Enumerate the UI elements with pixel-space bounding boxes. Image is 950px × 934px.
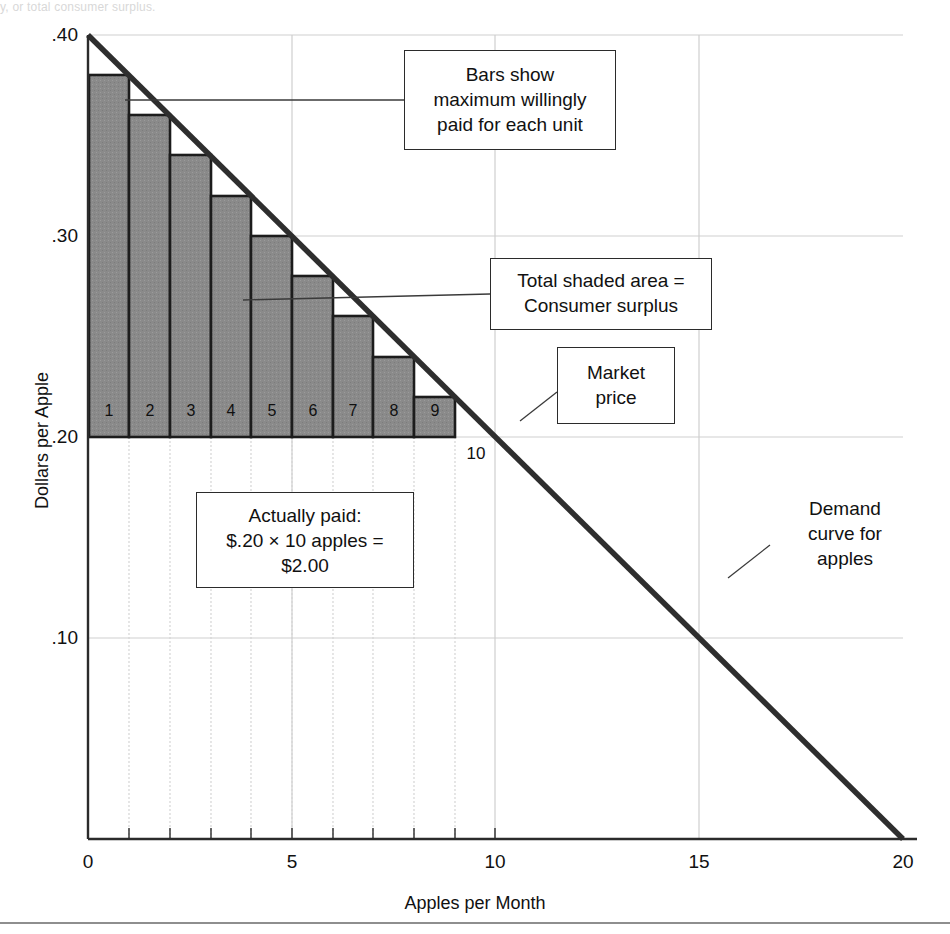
bar-unit-1 [89,75,129,437]
market-quantity-label: 10 [456,444,496,464]
consumer-surplus-figure: y, or total consumer surplus. [0,0,950,934]
bar-label-6: 6 [293,402,333,420]
y-tick-010: .10 [26,627,78,649]
x-tick-5: 5 [262,851,322,873]
x-axis-ticks [129,828,495,839]
callout-actually-paid: Actually paid: $.20 × 10 apples = $2.00 [196,492,414,588]
x-tick-10: 10 [465,851,525,873]
bar-unit-4 [211,196,251,437]
bar-label-9: 9 [415,402,455,420]
label-demand-curve: Demand curve for apples [770,496,920,571]
bar-unit-8 [373,357,414,437]
x-tick-20: 20 [873,851,933,873]
bar-label-4: 4 [211,402,251,420]
x-tick-0: 0 [58,851,118,873]
y-axis-title: Dollars per Apple [32,311,53,571]
callout-shaded-area: Total shaded area = Consumer surplus [490,258,712,330]
bar-unit-3 [170,155,211,437]
y-tick-030: .30 [26,225,78,247]
x-axis-title: Apples per Month [0,893,950,914]
bar-unit-2 [129,115,170,437]
bar-label-3: 3 [171,402,211,420]
y-tick-040: .40 [26,24,78,46]
x-tick-15: 15 [669,851,729,873]
surplus-bars [89,75,455,437]
bar-label-8: 8 [374,402,414,420]
bar-label-1: 1 [89,402,129,420]
callout-market-price: Market price [557,347,675,424]
leader-demand [728,545,770,578]
figure-bottom-rule [0,922,950,924]
bar-label-2: 2 [130,402,170,420]
leader-market [520,392,557,421]
bar-label-5: 5 [252,402,292,420]
callout-bars-explanation: Bars show maximum willingly paid for eac… [404,50,616,150]
bar-label-7: 7 [333,402,373,420]
